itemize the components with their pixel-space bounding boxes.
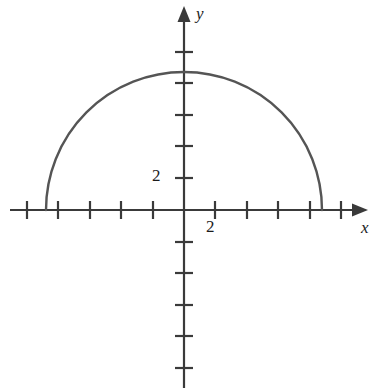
x-axis-arrowhead — [352, 204, 368, 217]
coordinate-plane-svg — [0, 0, 376, 388]
graph-figure: y x 2 2 — [0, 0, 376, 388]
x-axis-label: x — [361, 218, 369, 238]
y-axis-tick-label-2: 2 — [152, 166, 161, 186]
x-axis-tick-label-2: 2 — [206, 217, 215, 237]
y-axis-arrowhead — [178, 6, 191, 22]
y-axis-label: y — [196, 4, 204, 24]
